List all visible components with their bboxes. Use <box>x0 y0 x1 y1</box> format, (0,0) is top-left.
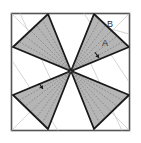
label-a: A <box>102 38 108 48</box>
pinwheel-figure: BA <box>0 0 141 143</box>
label-b: B <box>107 19 113 29</box>
figure-container: BA <box>0 0 141 143</box>
